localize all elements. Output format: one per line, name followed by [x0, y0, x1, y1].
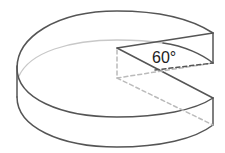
- cylinder-wedge-diagram: 60°: [0, 0, 225, 153]
- top-ellipse-arc: [17, 11, 213, 117]
- hidden-back-arc: [19, 40, 163, 76]
- hidden-bottom-radius-front: [117, 78, 213, 125]
- angle-label: 60°: [152, 49, 176, 66]
